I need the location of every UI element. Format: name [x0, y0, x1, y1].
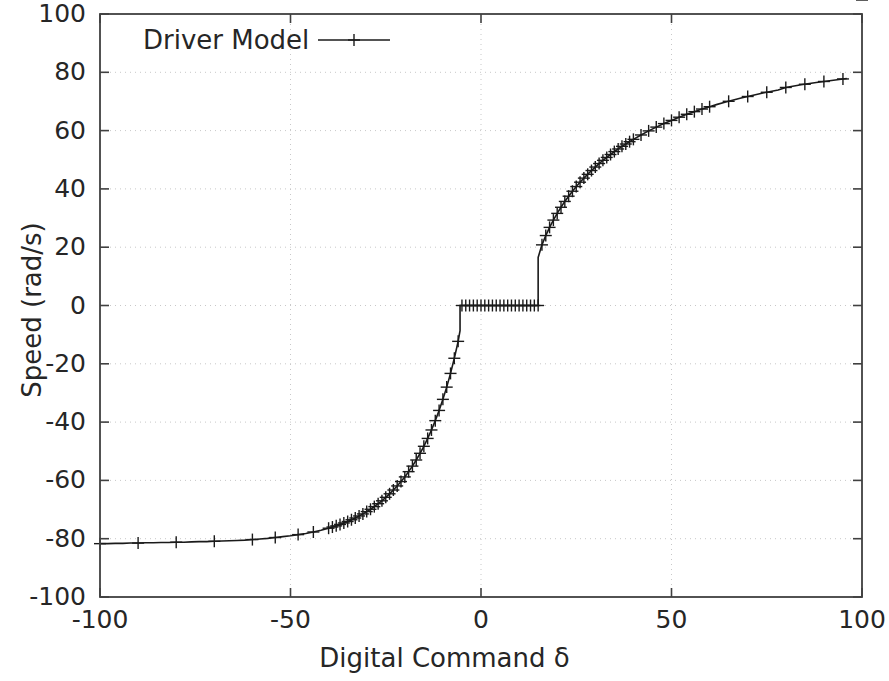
x-axis-title-text: Digital Command δ: [319, 643, 569, 673]
y-tick-label: 60: [0, 118, 86, 143]
y-tick-label: 0: [0, 293, 86, 318]
y-tick-label: -40: [0, 409, 86, 434]
plot-canvas: [0, 0, 889, 681]
x-tick-label: -100: [40, 607, 160, 632]
chart-figure: Driver Model Speed (rad/s) Digital Comma…: [0, 0, 889, 681]
legend-line-marker: [318, 34, 390, 46]
y-tick-label: -80: [0, 526, 86, 551]
x-tick-label: 50: [612, 607, 732, 632]
x-tick-label: 0: [421, 607, 541, 632]
y-tick-label: 80: [0, 59, 86, 84]
x-tick-label: 100: [802, 607, 889, 632]
legend-label: Driver Model: [143, 27, 309, 53]
y-tick-label: 100: [0, 1, 86, 26]
x-axis-title: Digital Command δ: [0, 645, 889, 671]
y-tick-label: -20: [0, 351, 86, 376]
x-tick-label: -50: [231, 607, 351, 632]
y-tick-label: 20: [0, 234, 86, 259]
y-tick-label: 40: [0, 176, 86, 201]
y-tick-label: -60: [0, 467, 86, 492]
